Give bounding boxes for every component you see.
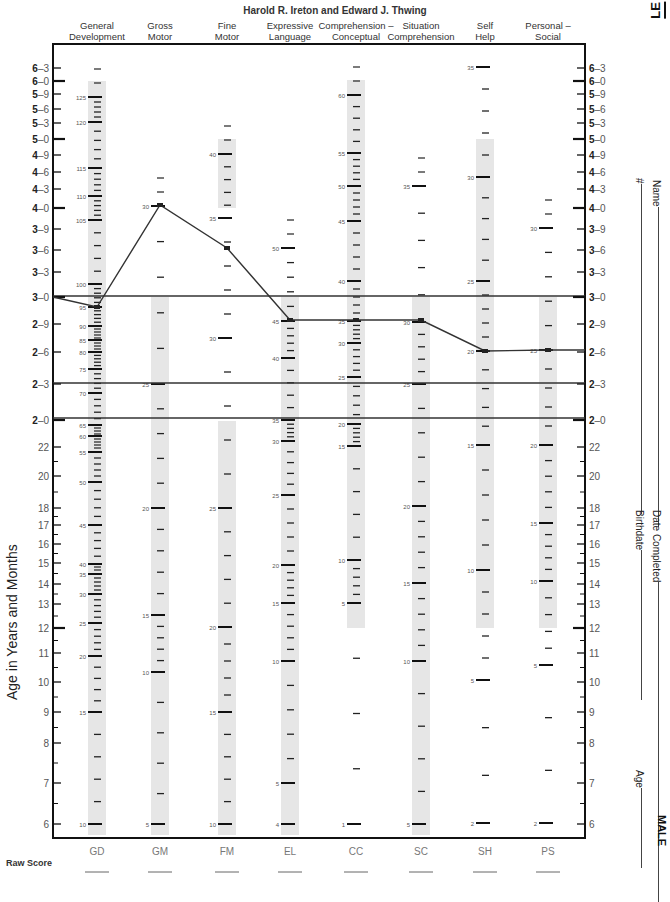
scale-value-label: 20 bbox=[272, 563, 279, 569]
scale-value-label: 90 bbox=[79, 324, 86, 330]
right-axis-label: 12 bbox=[589, 623, 601, 634]
scale-value-label: 70 bbox=[79, 391, 86, 397]
left-axis-label: 2–9 bbox=[32, 319, 49, 330]
scale-value-label: 125 bbox=[76, 95, 87, 101]
scale-value-label: 15 bbox=[142, 613, 149, 619]
scale-value-label: 75 bbox=[79, 367, 86, 373]
gender-label: MALE bbox=[656, 815, 668, 846]
field-name[interactable]: Name bbox=[651, 180, 662, 527]
field-underline[interactable] bbox=[641, 550, 643, 700]
scale-value-label: 50 bbox=[338, 184, 345, 190]
left-axis-label: 2–6 bbox=[32, 347, 49, 358]
scale-value-label: 25 bbox=[209, 506, 216, 512]
field-underline[interactable] bbox=[658, 207, 660, 527]
scale-value-label: 15 bbox=[403, 581, 410, 587]
left-axis-label: 5–6 bbox=[32, 104, 49, 115]
left-axis-label: 2–0 bbox=[32, 415, 49, 426]
right-axis-label: 6–0 bbox=[589, 76, 606, 87]
scale-value-label: 45 bbox=[79, 523, 86, 529]
field-label: Birthdate bbox=[634, 510, 645, 550]
right-axis-label: 3–9 bbox=[589, 224, 606, 235]
left-axis-label: 4–3 bbox=[32, 184, 49, 195]
field-birthdate[interactable]: Birthdate bbox=[634, 510, 645, 700]
right-axis-label: 4–3 bbox=[589, 184, 606, 195]
scale-value-label: 30 bbox=[272, 439, 279, 445]
scale-value-label: 20 bbox=[142, 506, 149, 512]
scale-value-label: 10 bbox=[272, 659, 279, 665]
right-axis-label: 4–9 bbox=[589, 150, 606, 161]
column-code-ps: PS bbox=[541, 846, 555, 857]
scale-value-label: 5 bbox=[342, 601, 346, 607]
scale-value-label: 55 bbox=[79, 450, 86, 456]
scale-value-label: 10 bbox=[338, 558, 345, 564]
field-[interactable]: # bbox=[634, 178, 645, 514]
field-age[interactable]: Age bbox=[634, 770, 645, 868]
left-axis-label: 2–3 bbox=[32, 379, 49, 390]
scale-value-label: 5 bbox=[407, 822, 411, 828]
column-code-fm: FM bbox=[220, 846, 234, 857]
left-axis-label: 3–0 bbox=[32, 292, 49, 303]
left-axis-label: 5–3 bbox=[32, 118, 49, 129]
scale-value-label: 10 bbox=[403, 659, 410, 665]
scale-value-label: 30 bbox=[209, 336, 216, 342]
scale-value-label: 40 bbox=[79, 562, 86, 568]
field-label: # bbox=[634, 178, 645, 184]
field-underline[interactable] bbox=[641, 788, 643, 868]
profile-point-gd bbox=[94, 305, 100, 309]
right-axis-label: 22 bbox=[589, 442, 601, 453]
scale-value-label: 50 bbox=[79, 480, 86, 486]
right-axis-label: 20 bbox=[589, 471, 601, 482]
scale-value-label: 20 bbox=[467, 349, 474, 355]
scale-value-label: 15 bbox=[209, 710, 216, 716]
left-axis-label: 17 bbox=[38, 520, 50, 531]
field-underline[interactable] bbox=[658, 582, 660, 902]
left-axis-label: 3–9 bbox=[32, 224, 49, 235]
scale-value-label: 10 bbox=[142, 670, 149, 676]
scale-value-label: 45 bbox=[272, 319, 279, 325]
chart-frame bbox=[53, 44, 585, 838]
right-axis-label: 10 bbox=[589, 677, 601, 688]
profile-point-sh bbox=[482, 349, 488, 353]
right-axis-label: 3–0 bbox=[589, 292, 606, 303]
left-axis-label: 16 bbox=[38, 539, 50, 550]
scale-value-label: 80 bbox=[79, 350, 86, 356]
scale-value-label: 40 bbox=[272, 356, 279, 362]
scale-value-label: 25 bbox=[467, 279, 474, 285]
scale-value-label: 10 bbox=[467, 568, 474, 574]
column-code-gd: GD bbox=[90, 846, 105, 857]
right-axis-label: 18 bbox=[589, 503, 601, 514]
left-axis-label: 3–6 bbox=[32, 245, 49, 256]
left-axis-label: 4–0 bbox=[32, 203, 49, 214]
profile-point-el bbox=[287, 318, 293, 322]
left-axis-label: 5–0 bbox=[32, 134, 49, 145]
right-axis-label: 13 bbox=[589, 599, 601, 610]
right-axis-label: 5–3 bbox=[589, 118, 606, 129]
scale-value-label: 25 bbox=[272, 493, 279, 499]
right-axis-label: 2–9 bbox=[589, 319, 606, 330]
left-axis-label: 4–6 bbox=[32, 167, 49, 178]
profile-point-cc bbox=[353, 318, 359, 322]
right-axis-label: 3–6 bbox=[589, 245, 606, 256]
profile-point-sc bbox=[418, 318, 424, 322]
left-axis-label: 5–9 bbox=[32, 89, 49, 100]
scale-value-label: 110 bbox=[76, 194, 86, 200]
profile-point-fm bbox=[224, 246, 230, 250]
right-axis-label: 2–0 bbox=[589, 415, 606, 426]
scale-value-label: 95 bbox=[79, 305, 86, 311]
left-axis-label: 8 bbox=[43, 738, 49, 749]
left-axis-label: 7 bbox=[43, 778, 49, 789]
scale-value-label: 20 bbox=[530, 443, 537, 449]
left-axis-label: 13 bbox=[38, 599, 50, 610]
scale-value-label: 30 bbox=[530, 226, 537, 232]
scale-value-label: 30 bbox=[142, 204, 149, 210]
right-axis-label: 5–9 bbox=[589, 89, 606, 100]
field-label: Age bbox=[634, 770, 645, 788]
field-underline[interactable] bbox=[641, 184, 643, 514]
scale-value-label: 30 bbox=[467, 175, 474, 181]
column-code-sh: SH bbox=[478, 846, 492, 857]
raw-score-label: Raw Score bbox=[6, 858, 52, 868]
left-axis-label: 20 bbox=[38, 471, 50, 482]
left-axis-label: 12 bbox=[38, 623, 50, 634]
right-axis-label: 3–3 bbox=[589, 267, 606, 278]
